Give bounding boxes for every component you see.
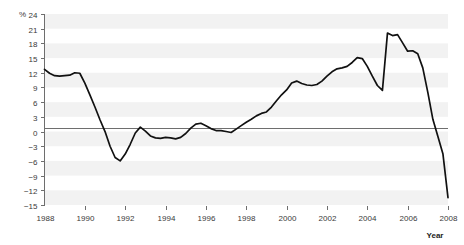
- y-tick-marks: [41, 15, 45, 206]
- x-tick-label: 1990: [77, 214, 95, 223]
- x-tick-label: 2008: [440, 214, 458, 223]
- x-tick-label: 2004: [359, 214, 377, 223]
- x-tick-label: 1996: [198, 214, 216, 223]
- chart-band: [45, 161, 449, 176]
- x-tick-marks: [86, 206, 449, 210]
- y-axis-unit-label: %: [19, 10, 26, 19]
- y-tick-label: 24: [29, 11, 38, 20]
- line-chart: 24211815129630−3−6−9−12−15 1988199019921…: [0, 0, 464, 245]
- chart-band: [45, 102, 449, 117]
- chart-band: [45, 43, 449, 58]
- y-tick-label: 9: [33, 84, 38, 93]
- chart-container: 24211815129630−3−6−9−12−15 1988199019921…: [0, 0, 464, 245]
- x-tick-label: 2002: [319, 214, 337, 223]
- y-tick-labels: 24211815129630−3−6−9−12−15: [24, 11, 38, 211]
- x-tick-label: 1998: [238, 214, 256, 223]
- x-tick-label: 1994: [158, 214, 176, 223]
- x-tick-label: 2006: [400, 214, 418, 223]
- y-tick-label: −6: [28, 158, 38, 167]
- chart-band: [45, 190, 449, 205]
- x-tick-label: 1988: [37, 214, 55, 223]
- chart-band: [45, 73, 449, 88]
- y-tick-label: −9: [28, 173, 38, 182]
- chart-band: [45, 14, 449, 29]
- x-tick-label: 1992: [117, 214, 135, 223]
- y-tick-label: 21: [29, 26, 38, 35]
- y-tick-label: 18: [29, 40, 38, 49]
- y-tick-label: 15: [29, 55, 38, 64]
- y-tick-label: −3: [28, 143, 38, 152]
- x-tick-label: 2000: [279, 214, 297, 223]
- y-tick-label: 0: [33, 129, 38, 138]
- x-axis-title: Year: [427, 231, 444, 240]
- x-tick-labels: 1988199019921994199619982000200220042006…: [37, 214, 458, 223]
- y-tick-label: 6: [33, 99, 38, 108]
- y-tick-label: −12: [24, 187, 38, 196]
- y-tick-label: 3: [33, 114, 38, 123]
- y-tick-label: −15: [24, 202, 38, 211]
- y-tick-label: 12: [29, 70, 38, 79]
